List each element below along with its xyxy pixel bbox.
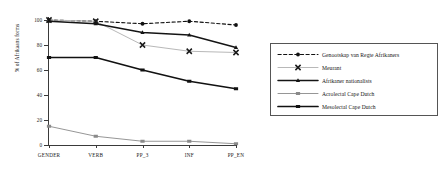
x-axis-tick-label: GENDER — [29, 152, 69, 158]
legend-marker-square-icon — [276, 100, 320, 113]
series-4 — [47, 56, 238, 90]
x-axis-tick — [143, 145, 144, 148]
x-axis-tick-label: INF — [169, 152, 209, 158]
y-axis-tick — [44, 20, 48, 21]
legend-marker-x-icon — [276, 61, 320, 74]
y-axis-tick — [44, 120, 48, 121]
y-axis-tick — [44, 145, 48, 146]
line-chart: % of Afrikaans forms 020406080100GENDERV… — [0, 0, 258, 174]
y-axis-tick-label: 0 — [24, 142, 42, 148]
legend-marker-square-icon — [276, 87, 320, 100]
plot-area: 020406080100GENDERVERBPP_3INFPP_EN — [0, 0, 258, 174]
x-axis-tick-label: VERB — [76, 152, 116, 158]
legend-label: Meurant — [320, 65, 341, 71]
x-axis-tick — [236, 145, 237, 148]
legend-label: Afrikaner nationalists — [320, 78, 372, 84]
x-axis-tick — [189, 145, 190, 148]
x-axis-tick — [96, 145, 97, 148]
y-axis-tick-label: 80 — [24, 42, 42, 48]
y-axis-tick — [44, 45, 48, 46]
y-axis-tick-label: 20 — [24, 117, 42, 123]
x-axis-tick — [49, 145, 50, 148]
x-axis-tick-label: PP_3 — [123, 152, 163, 158]
legend-marker-circle-icon — [276, 48, 320, 61]
legend-label: Mesolectal Cape Dutch — [320, 104, 376, 110]
y-axis-tick-label: 100 — [24, 17, 42, 23]
legend-item: Meurant — [276, 61, 432, 74]
series-3 — [47, 125, 238, 146]
legend-item: Genootskap van Regte Afrikaners — [276, 48, 432, 61]
y-axis-tick-label: 40 — [24, 92, 42, 98]
legend-item: Acrolectal Cape Dutch — [276, 87, 432, 100]
legend-item: Afrikaner nationalists — [276, 74, 432, 87]
y-axis-tick — [44, 70, 48, 71]
y-axis-tick-label: 60 — [24, 67, 42, 73]
legend-label: Acrolectal Cape Dutch — [320, 91, 374, 97]
x-axis-tick-label: PP_EN — [216, 152, 256, 158]
legend-marker-triangle-icon — [276, 74, 320, 87]
chart-figure: % of Afrikaans forms 020406080100GENDERV… — [0, 0, 442, 174]
chart-legend: Genootskap van Regte AfrikanersMeurantAf… — [270, 43, 438, 116]
legend-item: Mesolectal Cape Dutch — [276, 100, 432, 113]
legend-label: Genootskap van Regte Afrikaners — [320, 52, 399, 58]
y-axis-tick — [44, 95, 48, 96]
